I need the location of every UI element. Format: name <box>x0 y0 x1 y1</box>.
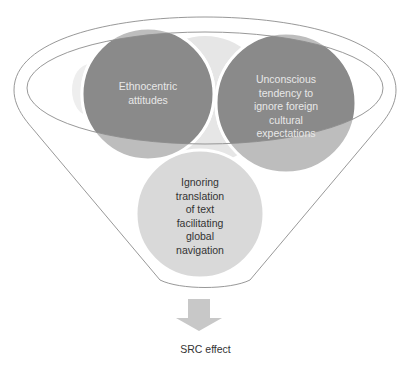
label-line: expectations <box>236 127 336 141</box>
label-line: Ignoring <box>150 176 250 190</box>
label-ethnocentric: Ethnocentric attitudes <box>98 80 198 107</box>
label-line: attitudes <box>98 94 198 108</box>
label-line: Ethnocentric <box>98 80 198 94</box>
label-line: cultural <box>236 114 336 128</box>
label-line: global <box>150 230 250 244</box>
label-line: facilitating <box>150 217 250 231</box>
label-unconscious: Unconscious tendency to ignore foreign c… <box>236 73 336 141</box>
label-line: navigation <box>150 244 250 258</box>
label-line: translation <box>150 190 250 204</box>
down-arrow-icon <box>176 299 222 331</box>
label-line: ignore foreign <box>236 100 336 114</box>
label-line: of text <box>150 203 250 217</box>
label-line: tendency to <box>236 87 336 101</box>
output-label: SRC effect <box>0 343 411 355</box>
label-ignoring-translation: Ignoring translation of text facilitatin… <box>150 176 250 257</box>
label-line: Unconscious <box>236 73 336 87</box>
